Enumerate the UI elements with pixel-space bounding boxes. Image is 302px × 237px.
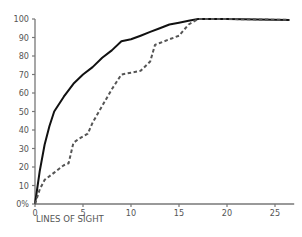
y-tick-label: 30 bbox=[19, 144, 29, 154]
line-chart: 0%102030405060708090100 0510152025 LINES… bbox=[0, 0, 302, 237]
x-axis-label: LINES OF SIGHT bbox=[36, 213, 105, 224]
y-tick-label: 80 bbox=[19, 51, 29, 61]
x-tick-label: 15 bbox=[174, 208, 184, 218]
x-tick-label: 20 bbox=[222, 208, 232, 218]
y-tick-label: 20 bbox=[19, 162, 29, 172]
y-tick-label: 100 bbox=[14, 14, 29, 24]
y-tick-label: 50 bbox=[19, 107, 29, 117]
y-tick-label: 0% bbox=[16, 199, 29, 209]
y-tick-label: 10 bbox=[19, 181, 29, 191]
y-tick-label: 40 bbox=[19, 125, 29, 135]
x-tick-label: 25 bbox=[270, 208, 280, 218]
series-dashed-line bbox=[35, 19, 289, 204]
series-group bbox=[35, 19, 289, 204]
y-tick-label: 60 bbox=[19, 88, 29, 98]
y-tick-label: 90 bbox=[19, 33, 29, 43]
y-tick-label: 70 bbox=[19, 70, 29, 80]
chart-svg: 0%102030405060708090100 0510152025 LINES… bbox=[0, 0, 302, 237]
y-axis: 0%102030405060708090100 bbox=[14, 14, 35, 209]
series-solid-line bbox=[35, 19, 289, 204]
x-tick-label: 10 bbox=[126, 208, 136, 218]
